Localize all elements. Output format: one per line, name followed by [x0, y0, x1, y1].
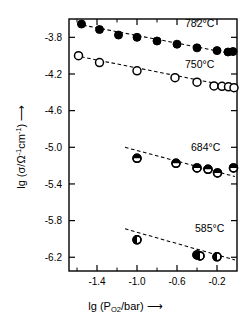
y-axis-title-tail: ) — [15, 124, 27, 128]
data-point-750°C — [230, 84, 238, 92]
plot-area: -1.4-1.0-0.6-0.2-3.8-4.2-4.6-5.0-5.4-5.8… — [0, 0, 251, 326]
y-axis-arrow-icon: ⟶ — [15, 105, 27, 121]
annotation-label: 782°C — [185, 17, 215, 29]
annotation-label: 750°C — [185, 58, 215, 70]
data-point-750°C — [133, 67, 141, 75]
x-axis-title-text: lg (P — [88, 300, 111, 312]
y-axis-title: lg (σ/Ω-1cm-1) ⟶ — [14, 82, 27, 212]
data-point-684°C — [133, 154, 141, 162]
data-point-782°C — [78, 20, 86, 28]
data-point-750°C — [171, 74, 179, 82]
data-point-684°C — [214, 169, 222, 177]
y-tick-label: -5.8 — [45, 215, 63, 226]
data-point-750°C — [193, 78, 201, 86]
data-point-782°C — [193, 44, 201, 52]
data-point-782°C — [173, 40, 181, 48]
data-point-782°C — [133, 33, 141, 41]
y-tick-label: -5.4 — [45, 179, 63, 190]
data-point-782°C — [115, 31, 123, 39]
y-tick-label: -5.0 — [45, 142, 63, 153]
data-point-782°C — [153, 37, 161, 45]
y-tick-label: -4.2 — [45, 69, 63, 80]
data-point-684°C — [204, 165, 212, 173]
data-point-782°C — [213, 47, 221, 55]
y-axis-title-sup2: -1 — [14, 127, 23, 134]
data-point-684°C — [172, 159, 180, 167]
data-point-750°C — [75, 52, 83, 60]
x-axis-arrow-icon: ⟶ — [147, 300, 163, 312]
y-axis-title-sup1: -1 — [14, 149, 23, 156]
annotation-label: 684°C — [191, 141, 221, 153]
conductivity-figure: -1.4-1.0-0.6-0.2-3.8-4.2-4.6-5.0-5.4-5.8… — [0, 0, 251, 326]
data-point-684°C — [193, 164, 201, 172]
data-point-782°C — [96, 26, 104, 34]
data-point-684°C — [230, 164, 238, 172]
y-axis-title-text: lg (σ/Ω — [15, 155, 27, 188]
data-point-585°C — [133, 236, 141, 244]
data-point-585°C — [213, 253, 221, 261]
data-point-750°C — [210, 82, 218, 90]
data-point-585°C — [196, 252, 204, 260]
data-point-782°C — [229, 48, 237, 56]
x-tick-label: -0.6 — [168, 276, 186, 287]
x-tick-label: -1.4 — [88, 276, 106, 287]
y-tick-label: -3.8 — [45, 32, 63, 43]
x-axis-title-tail: /bar) — [121, 300, 144, 312]
annotation-label: 585°C — [195, 222, 225, 234]
y-tick-label: -4.6 — [45, 105, 63, 116]
y-tick-label: -6.2 — [45, 252, 63, 263]
data-point-750°C — [96, 59, 104, 67]
x-axis-title: lg (PO2/bar) ⟶ — [0, 300, 251, 314]
y-axis-title-mid: cm — [15, 134, 27, 149]
x-tick-label: -1.0 — [128, 276, 146, 287]
x-tick-label: -0.2 — [208, 276, 226, 287]
